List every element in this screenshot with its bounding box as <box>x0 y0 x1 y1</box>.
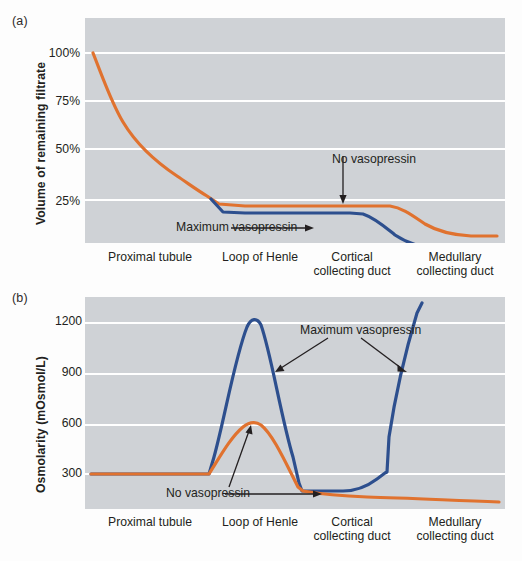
panel-a-tag: (a) <box>12 14 28 28</box>
panel-a-ytick-50: 50% <box>42 142 80 156</box>
panel-a: (a) Volume of remaining filtrate 100% 75… <box>0 0 522 285</box>
panel-a-annotation-maximum-vasopressin: Maximum vasopressin <box>176 220 297 234</box>
panel-a-xlabel-cortical-collecting-duct: Cortical collecting duct <box>300 250 404 278</box>
panel-b-annotation-maximum-vasopressin: Maximum vasopressin <box>300 323 421 337</box>
panel-a-ytick-25: 25% <box>42 194 80 208</box>
panel-a-xlabel-medullary-collecting-duct: Medullary collecting duct <box>401 250 509 278</box>
panel-b-xlabel-cortical-collecting-duct: Cortical collecting duct <box>300 515 404 543</box>
panel-b-ytick-600: 600 <box>40 416 82 430</box>
panel-a-xlabel-proximal-tubule: Proximal tubule <box>86 250 214 264</box>
panel-a-ytick-100: 100% <box>42 46 80 60</box>
panel-a-ytick-75: 75% <box>42 94 80 108</box>
panel-b-ytick-900: 900 <box>40 365 82 379</box>
panel-a-plot-background <box>85 18 505 243</box>
panel-b-ytick-300: 300 <box>40 466 82 480</box>
panel-b-annotation-no-vasopressin: No vasopressin <box>166 486 250 500</box>
panel-a-plot <box>85 18 505 243</box>
panel-b-xlabel-medullary-collecting-duct: Medullary collecting duct <box>401 515 509 543</box>
panel-b-plot <box>85 297 505 509</box>
figure-container: (a) Volume of remaining filtrate 100% 75… <box>0 0 522 561</box>
panel-b-plot-background <box>85 297 505 509</box>
panel-b-tag: (b) <box>12 291 28 305</box>
panel-a-annotation-no-vasopressin: No vasopressin <box>332 152 416 166</box>
panel-b-ytick-1200: 1200 <box>40 314 82 328</box>
panel-b-xlabel-proximal-tubule: Proximal tubule <box>86 515 214 529</box>
panel-b: (b) Osmolarity (mOsmol/L) 1200 900 600 3… <box>0 281 522 561</box>
